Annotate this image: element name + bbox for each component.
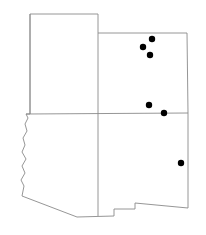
site-marker-north-c[interactable] — [147, 52, 153, 58]
map-figure — [0, 0, 206, 235]
site-marker-north-b[interactable] — [140, 44, 146, 50]
map-canvas — [0, 0, 206, 235]
site-marker-central-a[interactable] — [146, 102, 152, 108]
site-marker-southeast[interactable] — [178, 160, 184, 166]
site-marker-central-b[interactable] — [161, 110, 167, 116]
site-marker-north-a[interactable] — [149, 36, 155, 42]
